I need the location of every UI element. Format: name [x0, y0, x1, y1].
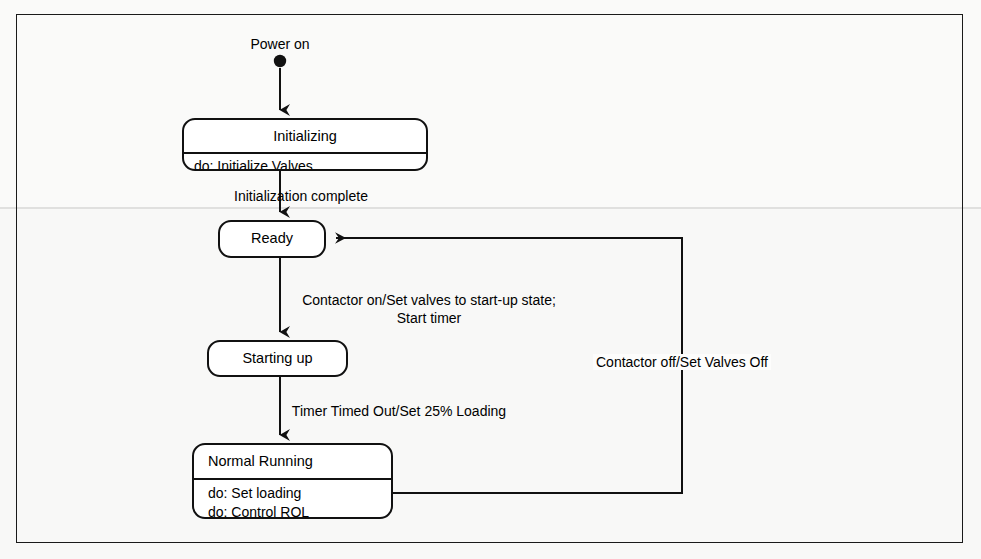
state-initializing-title: Initializing	[184, 120, 426, 152]
state-starting-up[interactable]: Starting up	[207, 340, 348, 377]
label-contactor-off: Contactor off/Set Valves Off	[593, 354, 771, 372]
state-ready-title: Ready	[251, 230, 293, 247]
label-power-on: Power on	[250, 36, 309, 54]
label-contactor-on-line2: Start timer	[302, 310, 556, 328]
state-normal-running-activities: do: Set loading do: Control ROL	[194, 480, 391, 519]
state-starting-up-title: Starting up	[242, 350, 312, 367]
label-contactor-off-text: Contactor off/Set Valves Off	[593, 354, 771, 370]
label-initialization-complete: Initialization complete	[234, 188, 368, 206]
activity-line: do: Set loading	[208, 484, 391, 503]
state-normal-running[interactable]: Normal Running do: Set loading do: Contr…	[192, 443, 393, 519]
state-ready[interactable]: Ready	[218, 220, 326, 258]
state-normal-running-title: Normal Running	[194, 445, 391, 478]
label-contactor-on: Contactor on/Set valves to start-up stat…	[302, 292, 556, 327]
state-diagram-figure: Initializing do: Initialize Valves Ready…	[0, 0, 981, 559]
label-contactor-on-line1: Contactor on/Set valves to start-up stat…	[302, 292, 556, 308]
diagram-frame	[16, 14, 963, 543]
label-timer-timed-out: Timer Timed Out/Set 25% Loading	[292, 403, 506, 421]
activity-line: do: Control ROL	[208, 503, 391, 519]
state-initializing[interactable]: Initializing do: Initialize Valves	[182, 118, 428, 171]
activity-line: do: Initialize Valves	[194, 157, 426, 171]
state-initializing-activities: do: Initialize Valves	[184, 154, 426, 171]
